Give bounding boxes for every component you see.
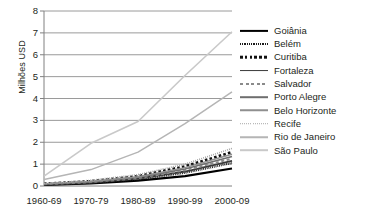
- legend-item[interactable]: Curitiba: [240, 51, 380, 64]
- legend-swatch-icon: [240, 25, 268, 36]
- legend-swatch-icon: [240, 78, 268, 89]
- y-tick-label: 4: [14, 94, 38, 104]
- y-tick-label: 2: [14, 137, 38, 147]
- y-tick-label: 3: [14, 115, 38, 125]
- legend-item-label: Curitiba: [274, 52, 307, 62]
- legend-item[interactable]: Rio de Janeiro: [240, 130, 380, 143]
- legend-item-label: Recife: [274, 119, 301, 129]
- y-tick-label: 8: [14, 6, 38, 16]
- legend-swatch-icon: [240, 38, 268, 49]
- chart-figure: Milhões USD 876543210 1960-691970-791980…: [0, 0, 380, 220]
- legend-swatch-icon: [240, 65, 268, 76]
- y-tick-label: 0: [14, 181, 38, 191]
- legend-swatch-icon: [240, 145, 268, 156]
- legend-item-label: Goiânia: [274, 26, 307, 36]
- data-series-line: [44, 32, 232, 176]
- legend-item-label: São Paulo: [274, 146, 318, 156]
- y-tick-label: 5: [14, 72, 38, 82]
- legend-swatch-icon: [240, 52, 268, 63]
- y-tick-label: 6: [14, 50, 38, 60]
- legend-item[interactable]: Porto Alegre: [240, 90, 380, 103]
- legend-item-label: Porto Alegre: [274, 92, 326, 102]
- legend-item[interactable]: São Paulo: [240, 144, 380, 157]
- legend-swatch-icon: [240, 105, 268, 116]
- legend-item[interactable]: Belém: [240, 37, 380, 50]
- legend-swatch-icon: [240, 132, 268, 143]
- y-tick-label: 1: [14, 159, 38, 169]
- legend-item[interactable]: Recife: [240, 117, 380, 130]
- gridlines: [44, 11, 232, 164]
- legend-item-label: Belo Horizonte: [274, 106, 336, 116]
- legend-item[interactable]: Salvador: [240, 77, 380, 90]
- legend-item-label: Rio de Janeiro: [274, 132, 335, 142]
- series-canvas: [44, 11, 232, 186]
- legend-item-label: Fortaleza: [274, 66, 314, 76]
- legend-item-label: Salvador: [274, 79, 312, 89]
- legend-item-label: Belém: [274, 39, 301, 49]
- chart-legend: GoiâniaBelémCuritibaFortalezaSalvadorPor…: [240, 24, 380, 157]
- legend-item[interactable]: Goiânia: [240, 24, 380, 37]
- legend-item[interactable]: Belo Horizonte: [240, 104, 380, 117]
- y-tick-label: 7: [14, 28, 38, 38]
- legend-item[interactable]: Fortaleza: [240, 64, 380, 77]
- legend-swatch-icon: [240, 118, 268, 129]
- plot-area: [44, 11, 232, 186]
- legend-swatch-icon: [240, 92, 268, 103]
- x-tick-label: 2000-09: [203, 196, 261, 206]
